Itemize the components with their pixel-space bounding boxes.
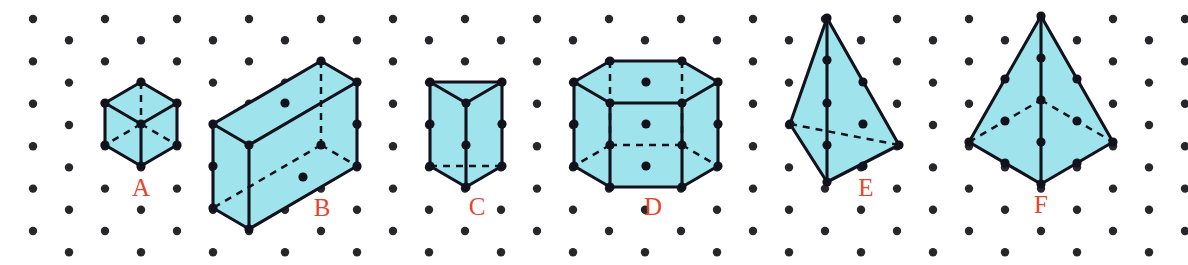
vertex-dot [713,119,722,128]
vertex-dot [677,98,686,107]
vertex-dot [461,140,470,149]
lattice-dot [281,248,289,256]
lattice-dot [173,184,181,192]
lattice-dot [173,57,181,65]
lattice-dot [389,227,397,235]
vertex-dot [1036,137,1045,146]
lattice-dot [749,227,757,235]
lattice-dot [785,36,793,44]
vertex-dot [172,140,181,149]
lattice-dot [1001,36,1009,44]
vertex-dot [208,119,217,128]
vertex-dot [172,98,181,107]
lattice-dot [749,15,757,23]
lattice-dot [785,248,793,256]
vertex-dot [1036,95,1045,104]
lattice-dot [497,206,505,214]
lattice-dot [929,248,937,256]
vertex-dot [605,56,614,65]
lattice-dot [1145,206,1153,214]
vertex-dot [641,161,650,170]
lattice-dot [245,57,253,65]
vertex-dot [461,98,470,107]
vertex-dot [100,98,109,107]
vertex-dot [605,98,614,107]
lattice-dot [29,100,37,108]
lattice-dot [281,36,289,44]
lattice-dot [497,36,505,44]
lattice-dot [65,206,73,214]
lattice-dot [533,100,541,108]
lattice-dot [29,227,37,235]
lattice-dot [1073,248,1081,256]
lattice-dot [497,248,505,256]
vertex-dot [713,161,722,170]
lattice-dot [29,184,37,192]
solid-label-a: A [132,174,150,201]
lattice-dot [749,142,757,150]
vertex-dot [1000,158,1009,167]
vertex-dot [641,119,650,128]
lattice-dot [317,15,325,23]
lattice-dot [533,142,541,150]
lattice-dot [929,121,937,129]
vertex-dot [1000,74,1009,83]
vertex-dot [677,182,686,191]
vertex-dot [822,140,831,149]
lattice-dot [389,57,397,65]
vertex-dot [425,161,434,170]
lattice-dot [605,15,613,23]
vertex-dot [641,77,650,86]
vertex-dot [352,119,361,128]
solid-label-d: D [644,193,662,220]
vertex-dot [352,161,361,170]
lattice-dot [173,227,181,235]
lattice-dot [65,78,73,86]
vertex-dot [605,182,614,191]
lattice-dot [641,248,649,256]
lattice-dot [461,227,469,235]
lattice-dot [137,206,145,214]
lattice-dot [965,227,973,235]
lattice-dot [101,57,109,65]
lattice-dot [1109,15,1117,23]
lattice-dot [101,184,109,192]
lattice-dot [101,15,109,23]
lattice-dot [857,36,865,44]
vertex-dot [1000,116,1009,125]
vertex-dot [1036,179,1045,188]
vertex-dot [569,161,578,170]
lattice-dot [1145,248,1153,256]
vertex-dot [964,137,973,146]
vertex-dot [1072,74,1081,83]
lattice-dot [965,15,973,23]
lattice-dot [641,36,649,44]
vertex-dot [244,140,253,149]
vertex-dot [1072,116,1081,125]
vertex-dot [352,77,361,86]
vertex-dot [497,119,506,128]
lattice-dot [857,206,865,214]
vertex-dot [858,77,867,86]
vertex-dot [461,182,470,191]
lattice-dot [929,163,937,171]
vertex-dot [569,119,578,128]
lattice-dot [65,248,73,256]
vertex-dot [208,203,217,212]
lattice-dot [713,36,721,44]
solid-label-f: F [1034,191,1048,218]
lattice-dot [425,248,433,256]
lattice-dot [569,36,577,44]
vertex-dot [298,172,307,181]
vertex-dot [822,177,831,186]
lattice-dot [893,184,901,192]
lattice-dot [209,36,217,44]
lattice-dot [425,36,433,44]
solid-label-b: B [314,194,331,221]
solid-label-e: E [858,174,873,201]
lattice-dot [389,142,397,150]
vertex-dot [822,13,831,22]
vertex-dot [136,119,145,128]
lattice-dot [893,15,901,23]
lattice-dot [29,57,37,65]
